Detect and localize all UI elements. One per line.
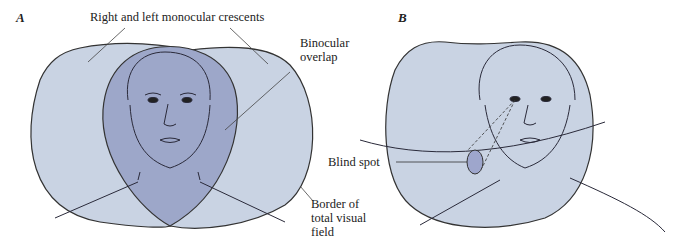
panel-a-visual-field bbox=[31, 28, 313, 228]
label-border-1: Border of bbox=[311, 197, 359, 211]
label-border-2: total visual bbox=[311, 211, 366, 225]
label-binocular-overlap-2: overlap bbox=[300, 50, 337, 64]
label-blind-spot: Blind spot bbox=[328, 155, 380, 169]
label-monocular-crescents: Right and left monocular crescents bbox=[90, 10, 264, 24]
blind-spot bbox=[467, 150, 483, 174]
label-binocular-overlap-1: Binocular bbox=[300, 36, 349, 50]
label-border-3: field bbox=[311, 225, 334, 239]
panel-b-visual-field bbox=[360, 42, 665, 232]
panel-label-b: B bbox=[398, 10, 407, 26]
panel-label-a: A bbox=[16, 10, 25, 26]
